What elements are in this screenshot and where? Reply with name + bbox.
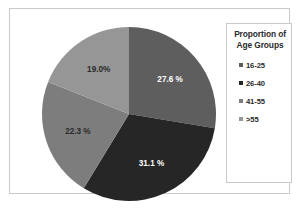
pie-slice-label: 19.0% xyxy=(87,65,111,74)
legend-title-line-1: Proportion of xyxy=(233,29,287,40)
legend-items: 16-2526-4041-55>55 xyxy=(233,60,287,124)
pie-slices xyxy=(42,27,216,201)
pie-plot-area: 27.6 %31.1 %22.3 %19.0% xyxy=(41,25,217,203)
legend-item[interactable]: >55 xyxy=(239,114,287,124)
pie-chart-figure: 27.6 %31.1 %22.3 %19.0% Proportion of Ag… xyxy=(0,0,299,211)
legend-item-label: 26-40 xyxy=(246,79,265,88)
pie-slice-label: 22.3 % xyxy=(65,127,91,136)
chart-frame: 27.6 %31.1 %22.3 %19.0% Proportion of Ag… xyxy=(9,8,290,194)
legend-item[interactable]: 16-25 xyxy=(239,60,287,70)
legend-title-line-2: Age Groups xyxy=(233,40,287,51)
legend: Proportion of Age Groups 16-2526-4041-55… xyxy=(226,23,292,183)
pie-svg: 27.6 %31.1 %22.3 %19.0% xyxy=(41,25,217,203)
legend-swatch-icon xyxy=(239,81,243,85)
legend-swatch-icon xyxy=(239,117,243,121)
legend-item-label: 16-25 xyxy=(246,61,265,70)
pie-slice-label: 31.1 % xyxy=(139,159,165,168)
legend-swatch-icon xyxy=(239,63,243,67)
pie-slice-label: 27.6 % xyxy=(157,75,183,84)
legend-title: Proportion of Age Groups xyxy=(233,29,287,51)
legend-item[interactable]: 26-40 xyxy=(239,78,287,88)
legend-item[interactable]: 41-55 xyxy=(239,96,287,106)
legend-item-label: 41-55 xyxy=(246,97,265,106)
legend-item-label: >55 xyxy=(246,115,259,124)
legend-swatch-icon xyxy=(239,99,243,103)
